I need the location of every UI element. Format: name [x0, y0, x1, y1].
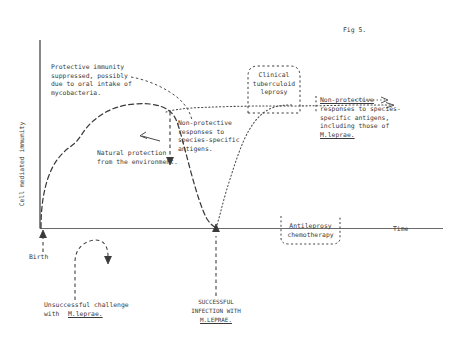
diagram-canvas [0, 0, 459, 340]
annotation-unsuccessful-challenge-prefix: with [44, 310, 63, 319]
birth-label: Birth [29, 253, 48, 262]
annotation-suppressed-immunity: Protective immunity suppressed, possibly… [51, 63, 132, 97]
annotation-clinical-tuberculoid-leprosy: Clinical tuberculoid leprosy [248, 71, 300, 97]
annotation-antileprosy-chemotherapy: Antileprosy chemotherapy [281, 222, 340, 239]
annotation-non-protective-right-heading: Non-protective [320, 96, 374, 105]
arrowhead-unsuccessful-challenge [105, 256, 112, 264]
leader-natural-protection [142, 136, 160, 141]
arrowhead-birth [40, 230, 47, 238]
x-axis-label: Time [393, 225, 408, 234]
figure-caption: Fig 5. [343, 26, 366, 35]
annotation-non-protective-right-species: M.leprae. [320, 131, 355, 140]
y-axis-label: Cell mediated immunity [18, 109, 26, 219]
annotation-successful-infection-line3: M.LEPRAE. [176, 316, 256, 324]
annotation-natural-protection: Natural protection from the environment. [97, 149, 178, 166]
leader-suppressed-annotation [131, 77, 192, 120]
annotation-non-protective-right-body: responses to species- specific antigens,… [320, 105, 401, 131]
leader-unsuccessful-challenge [75, 240, 108, 300]
annotation-unsuccessful-challenge-line1: Unsuccessful challenge [44, 301, 129, 310]
annotation-unsuccessful-challenge-species: M.leprae. [68, 310, 103, 319]
annotation-non-protective-mid: Non-protective responses to species-spec… [178, 119, 240, 153]
annotation-successful-infection-line1: SUCCESSFUL [176, 298, 256, 306]
annotation-successful-infection-line2: INFECTION WITH [176, 307, 256, 315]
figure-container: Fig 5. Cell mediated immunity Time Birth… [0, 0, 459, 340]
